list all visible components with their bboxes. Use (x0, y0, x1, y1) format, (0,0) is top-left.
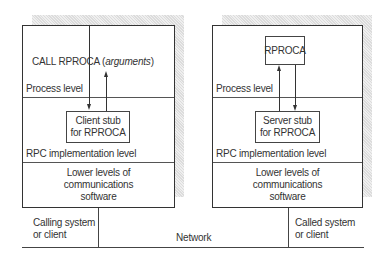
client-return-arrow-line (106, 76, 107, 112)
server-system-label: Called system or client (295, 217, 355, 241)
client-call-statement: CALL RPROCA (arguments) (32, 56, 154, 68)
client-stub-line2: for RPROCA (70, 127, 125, 139)
client-system-line1: Calling system (33, 217, 95, 229)
client-lower-levels-label: Lower levels of communications software (23, 167, 174, 203)
client-call-arrow-head-icon (87, 104, 91, 110)
client-lower-line3: software (23, 191, 174, 203)
call-text: CALL RPROCA ( (32, 56, 105, 67)
client-process-divider (23, 97, 174, 98)
client-rpc-level-label: RPC implementation level (26, 148, 136, 160)
client-system-line2: or client (33, 229, 95, 241)
client-return-arrow-head-icon (104, 71, 108, 77)
client-process-level-label: Process level (26, 83, 83, 95)
client-network-connector (98, 208, 99, 248)
server-procedure-label: RPROCA (264, 45, 306, 57)
client-call-arrow-line (89, 25, 90, 105)
network-label: Network (176, 232, 211, 244)
client-rpc-divider (23, 162, 174, 163)
call-close: ) (151, 56, 154, 67)
server-stub-line2: for RPROCA (260, 127, 315, 139)
client-system-label: Calling system or client (33, 217, 95, 241)
network-line (22, 247, 364, 248)
server-lower-levels-label: Lower levels of communications software (213, 167, 362, 203)
server-lower-line2: communications (213, 179, 362, 191)
server-process-divider (213, 97, 362, 98)
client-lower-line1: Lower levels of (23, 167, 174, 179)
client-stub-box: Client stub for RPROCA (66, 111, 130, 143)
client-stub-line1: Client stub (75, 115, 120, 127)
server-rpc-level-label: RPC implementation level (216, 148, 326, 160)
server-return-arrow-head-icon (277, 65, 281, 71)
server-stub-box: Server stub for RPROCA (255, 111, 320, 143)
server-call-arrow-line (295, 65, 296, 106)
call-arguments: arguments (105, 56, 150, 67)
server-lower-line1: Lower levels of (213, 167, 362, 179)
server-process-level-label: Process level (216, 83, 273, 95)
server-rpc-divider (213, 162, 362, 163)
server-stub-line1: Server stub (263, 115, 312, 127)
server-procedure-box: RPROCA (265, 36, 305, 65)
client-lower-line2: communications (23, 179, 174, 191)
server-return-arrow-line (279, 70, 280, 112)
server-lower-line3: software (213, 191, 362, 203)
server-network-connector (288, 208, 289, 248)
server-system-line2: or client (295, 229, 355, 241)
server-system-line1: Called system (295, 217, 355, 229)
